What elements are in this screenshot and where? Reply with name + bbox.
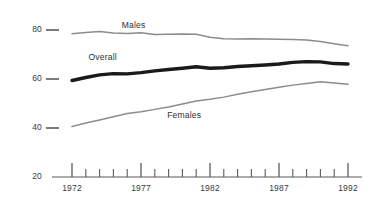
series-label-overall: Overall	[89, 52, 117, 62]
x-axis-tick-label: 1977	[121, 183, 161, 193]
series-line-overall	[72, 62, 348, 81]
line-chart: 80604020 19721977198219871992 MalesOvera…	[0, 0, 382, 212]
series-label-females: Females	[167, 110, 201, 120]
x-axis	[52, 163, 362, 177]
series-line-females	[72, 82, 348, 127]
y-axis-tick-label: 80	[14, 24, 42, 34]
series-label-males: Males	[122, 20, 146, 30]
y-axis-tick-label: 60	[14, 73, 42, 83]
y-axis-tick-label: 40	[14, 122, 42, 132]
x-axis-tick-label: 1987	[259, 183, 299, 193]
y-axis-tick-label: 20	[14, 171, 42, 181]
y-axis-tick-marks	[46, 30, 59, 128]
chart-plot-area	[0, 0, 382, 212]
series-lines	[72, 31, 348, 126]
series-line-males	[72, 31, 348, 45]
x-axis-tick-label: 1982	[190, 183, 230, 193]
x-axis-tick-label: 1972	[52, 183, 92, 193]
x-axis-tick-label: 1992	[328, 183, 368, 193]
